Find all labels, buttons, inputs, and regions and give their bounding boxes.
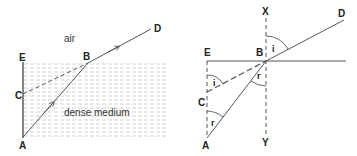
label-air: air: [64, 33, 76, 44]
dense-medium-hatching: [24, 64, 166, 136]
label-B-left: B: [83, 51, 90, 62]
arc-r-A: [207, 111, 223, 117]
label-D-right: D: [338, 8, 345, 19]
refraction-diagrams: E B C A D air dense medium i r i r X Y E…: [0, 0, 357, 156]
label-B-right: B: [256, 47, 263, 58]
label-A-left: A: [19, 140, 26, 151]
angle-i-top: i: [272, 44, 275, 54]
right-diagram: i r i r X Y E B C A D: [198, 6, 346, 151]
ray-BD-right: [266, 20, 344, 61]
left-diagram: E B C A D air dense medium: [15, 23, 166, 151]
label-C-left: C: [15, 90, 22, 101]
label-Y: Y: [262, 137, 269, 148]
arc-i-top: [266, 36, 288, 49]
angle-r-normal: r: [257, 71, 261, 81]
label-D-left: D: [154, 23, 161, 34]
arrow-BD: [108, 47, 118, 52]
angle-i-C: i: [213, 78, 216, 88]
label-dense-medium: dense medium: [64, 107, 130, 118]
angle-r-A: r: [211, 118, 215, 128]
label-C-right: C: [198, 97, 205, 108]
label-E-right: E: [204, 47, 211, 58]
arc-r-normal: [251, 81, 266, 86]
label-A-right: A: [202, 140, 209, 151]
label-X: X: [262, 6, 269, 17]
label-E-left: E: [19, 52, 26, 63]
ray-BD: [88, 29, 151, 63]
